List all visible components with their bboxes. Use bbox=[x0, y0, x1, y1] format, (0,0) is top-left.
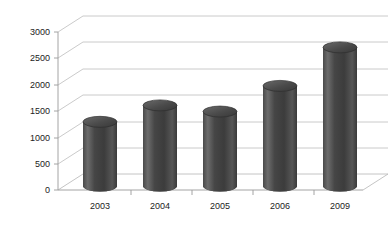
bar-2004-top bbox=[143, 100, 177, 111]
ytick-label-1000: 1000 bbox=[30, 133, 50, 143]
bar-2004[interactable] bbox=[143, 100, 177, 192]
xtick-label-2006: 2006 bbox=[270, 201, 290, 211]
bar-2006-body bbox=[263, 86, 297, 192]
ytick-label-2500: 2500 bbox=[30, 53, 50, 63]
ytick-label-500: 500 bbox=[35, 159, 50, 169]
floor-right-edge bbox=[363, 174, 388, 190]
floor-left-edge bbox=[58, 174, 83, 190]
xtick-label-2009: 2009 bbox=[330, 201, 350, 211]
bar-2003-body bbox=[83, 122, 117, 192]
xtick-label-2003: 2003 bbox=[90, 201, 110, 211]
gridline-3000 bbox=[58, 16, 388, 32]
bar-2005-top bbox=[203, 106, 237, 117]
bar-2009-top bbox=[323, 42, 357, 53]
y-axis-tick-labels: 3000 2500 2000 1500 1000 500 0 bbox=[30, 27, 50, 195]
bar-2006-top bbox=[263, 80, 297, 91]
ytick-label-3000: 3000 bbox=[30, 27, 50, 37]
bar-2003-top bbox=[83, 116, 117, 127]
xtick-label-2004: 2004 bbox=[150, 201, 170, 211]
x-axis-tick-labels: 2003 2004 2005 2006 2009 bbox=[90, 201, 350, 211]
bar-2004-body bbox=[143, 105, 177, 191]
bar-2005[interactable] bbox=[203, 106, 237, 191]
chart-canvas: 3000 2500 2000 1500 1000 500 0 bbox=[0, 0, 391, 228]
value-axis bbox=[54, 32, 58, 190]
ytick-label-2000: 2000 bbox=[30, 80, 50, 90]
ytick-label-0: 0 bbox=[45, 185, 50, 195]
bar-2003[interactable] bbox=[83, 116, 117, 191]
xtick-label-2005: 2005 bbox=[210, 201, 230, 211]
bar-2006[interactable] bbox=[263, 80, 297, 191]
bar-2009-body bbox=[323, 47, 357, 191]
ytick-label-1500: 1500 bbox=[30, 106, 50, 116]
bar-2005-body bbox=[203, 112, 237, 192]
bar-chart: 3000 2500 2000 1500 1000 500 0 bbox=[0, 0, 391, 228]
bar-2009[interactable] bbox=[323, 42, 357, 192]
